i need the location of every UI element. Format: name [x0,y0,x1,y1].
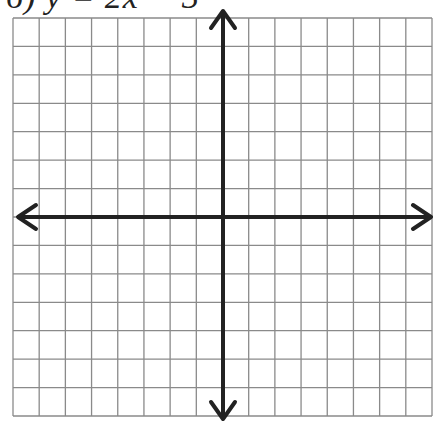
coordinate-plane[interactable] [0,0,433,422]
